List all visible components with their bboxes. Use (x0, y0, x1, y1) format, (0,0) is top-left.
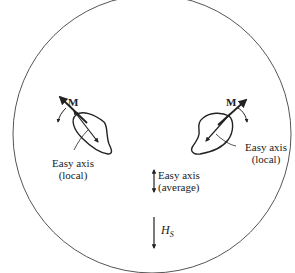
left-grain-outline (73, 113, 111, 154)
diagram-graphics (0, 0, 295, 273)
left-easy-axis-label-line1: Easy axis (42, 157, 104, 169)
average-easy-axis-label: Easy axis (average) (158, 169, 200, 193)
left-moment-label: M (68, 96, 78, 108)
right-rotation-arc-icon (238, 108, 247, 122)
field-hs-label: HS (161, 224, 174, 241)
right-easy-axis-label-line2: (local) (236, 153, 295, 165)
right-easy-axis-label: Easy axis (local) (236, 141, 295, 165)
right-leader-line (216, 134, 236, 146)
left-grain (58, 97, 112, 154)
right-moment-label: M (226, 96, 236, 108)
right-easy-axis-arrow (206, 114, 230, 141)
left-easy-axis-label: Easy axis (local) (42, 157, 104, 181)
field-subscript: S (170, 230, 174, 239)
left-rotation-arc-icon (58, 108, 66, 122)
field-symbol: H (161, 223, 170, 237)
average-easy-axis-label-line2: (average) (158, 181, 200, 193)
diagram-canvas: M Easy axis (local) M Easy axis (local) … (0, 0, 295, 273)
left-easy-axis-label-line2: (local) (42, 169, 104, 181)
sample-boundary-circle (13, 0, 291, 273)
left-leader-line (74, 130, 88, 150)
right-easy-axis-label-line1: Easy axis (236, 141, 295, 153)
average-easy-axis-label-line1: Easy axis (158, 169, 200, 181)
